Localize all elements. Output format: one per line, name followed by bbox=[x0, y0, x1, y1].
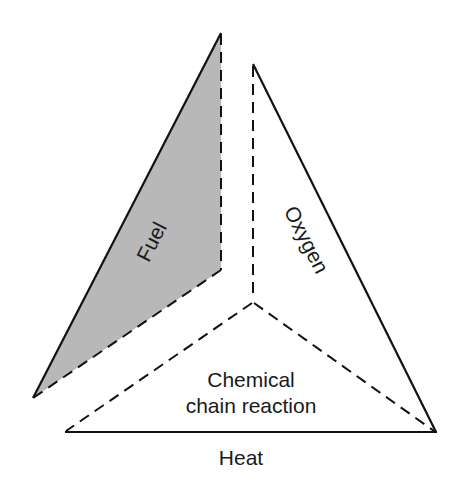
chain-label-line1: Chemical bbox=[207, 368, 295, 391]
heat-label: Heat bbox=[219, 446, 264, 469]
fire-tetrahedron-diagram: Fuel Oxygen Chemical chain reaction Heat bbox=[0, 0, 461, 481]
chain-label-line2: chain reaction bbox=[186, 394, 317, 417]
oxygen-label: Oxygen bbox=[280, 202, 333, 277]
